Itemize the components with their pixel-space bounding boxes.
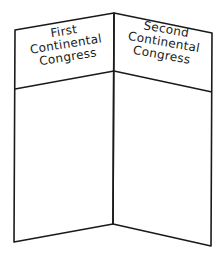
- right-divider: [114, 71, 212, 92]
- left-divider: [15, 71, 114, 89]
